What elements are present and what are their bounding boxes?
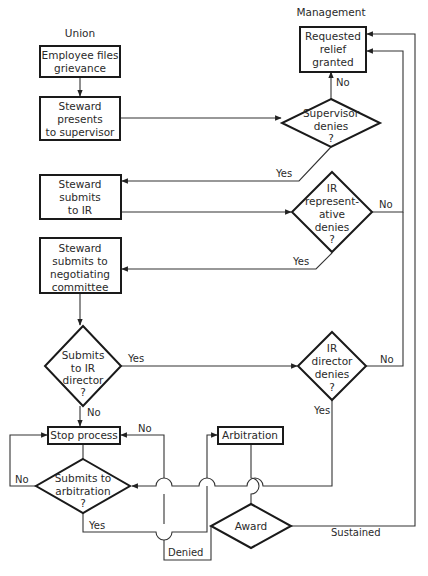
- svg-text:Award: Award: [235, 520, 268, 532]
- svg-text:Steward: Steward: [58, 100, 101, 112]
- node-stop-process: Stop process: [48, 427, 120, 444]
- node-ir-director-denies: IR director denies ?: [298, 332, 366, 400]
- svg-text:?: ?: [328, 132, 334, 144]
- edge-label-award-sustained: Sustained: [331, 527, 381, 538]
- lane-label-management: Management: [296, 6, 365, 18]
- node-submits-ir-director: Submits to IR director ?: [45, 326, 121, 406]
- svg-text:ative: ative: [319, 208, 345, 220]
- edge-label-ir-rep-no: No: [379, 199, 393, 210]
- svg-text:?: ?: [80, 386, 86, 398]
- node-steward-presents: Steward presents to supervisor: [40, 97, 120, 140]
- svg-text:Steward: Steward: [58, 242, 101, 254]
- svg-text:IR: IR: [327, 182, 337, 194]
- svg-text:presents: presents: [57, 113, 102, 125]
- edge-label-award-denied-no: No: [138, 423, 152, 434]
- node-steward-submits-committee: Steward submits to negotiating committee: [40, 238, 121, 293]
- svg-text:to IR: to IR: [68, 204, 92, 216]
- svg-text:to IR: to IR: [71, 362, 95, 374]
- svg-text:submits to: submits to: [52, 255, 107, 267]
- svg-text:Steward: Steward: [58, 178, 101, 190]
- lane-label-union: Union: [65, 27, 95, 39]
- svg-text:grievance: grievance: [54, 62, 106, 74]
- node-relief-granted: Requested relief granted: [300, 27, 366, 72]
- svg-text:Requested: Requested: [305, 30, 361, 42]
- svg-text:denies: denies: [314, 120, 349, 132]
- node-employee-files-grievance: Employee files grievance: [40, 46, 120, 77]
- svg-text:Stop process: Stop process: [50, 429, 118, 441]
- svg-text:denies: denies: [315, 368, 350, 380]
- node-steward-submits-ir: Steward submits to IR: [40, 175, 121, 219]
- edge-label-arbitration-no: No: [15, 474, 29, 485]
- edge-label-ir-director-no: No: [380, 354, 394, 365]
- edge-label-supervisor-no: No: [336, 77, 350, 88]
- svg-text:granted: granted: [312, 56, 353, 68]
- svg-text:negotiating: negotiating: [50, 268, 110, 280]
- edge-label-supervisor-yes: Yes: [275, 168, 292, 179]
- svg-text:Employee files: Employee files: [42, 49, 119, 61]
- svg-text:arbitration: arbitration: [55, 485, 110, 497]
- svg-text:Supervisor: Supervisor: [303, 107, 360, 119]
- svg-text:?: ?: [329, 233, 335, 245]
- svg-text:IR: IR: [327, 342, 337, 354]
- svg-text:director: director: [63, 374, 104, 386]
- svg-text:?: ?: [329, 381, 335, 393]
- edge-label-submit-director-yes: Yes: [127, 353, 144, 364]
- node-supervisor-denies: Supervisor denies ?: [282, 99, 380, 147]
- svg-text:represent-: represent-: [305, 195, 359, 207]
- svg-text:denies: denies: [315, 221, 350, 233]
- svg-text:relief: relief: [320, 43, 347, 55]
- node-ir-rep-denies: IR represent- ative denies ?: [292, 172, 372, 252]
- svg-text:Submits to: Submits to: [55, 472, 112, 484]
- edge-label-arbitration-yes: Yes: [88, 520, 105, 531]
- edge-label-ir-director-yes: Yes: [313, 405, 330, 416]
- svg-text:to supervisor: to supervisor: [46, 126, 115, 138]
- node-submits-arbitration: Submits to arbitration ?: [36, 459, 130, 513]
- svg-text:Submits: Submits: [62, 349, 105, 361]
- edge-label-submit-director-no: No: [87, 407, 101, 418]
- svg-text:Arbitration: Arbitration: [222, 429, 278, 441]
- svg-text:director: director: [312, 355, 353, 367]
- node-award: Award: [211, 504, 291, 548]
- svg-text:committee: committee: [52, 281, 109, 293]
- svg-text:submits: submits: [59, 191, 101, 203]
- node-arbitration: Arbitration: [218, 427, 283, 444]
- edge-label-ir-rep-yes: Yes: [292, 256, 309, 267]
- grievance-flowchart: Union Management: [0, 0, 428, 576]
- svg-text:?: ?: [80, 497, 86, 509]
- edge-label-award-denied: Denied: [168, 547, 203, 558]
